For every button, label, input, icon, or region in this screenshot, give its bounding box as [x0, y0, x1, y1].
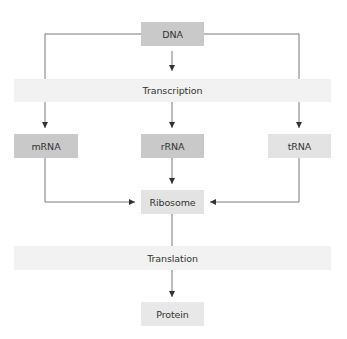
dna-node: DNA	[141, 22, 204, 46]
protein-label: Protein	[156, 309, 189, 320]
ribosome-label: Ribosome	[149, 197, 195, 208]
protein-node: Protein	[141, 302, 204, 326]
mrna-label: mRNA	[31, 141, 60, 152]
trna-label: tRNA	[288, 141, 312, 152]
trna-node: tRNA	[268, 134, 331, 158]
connector-arrows	[0, 0, 347, 339]
rrna-node: rRNA	[141, 134, 204, 158]
ribosome-node: Ribosome	[141, 190, 204, 214]
rrna-label: rRNA	[161, 141, 185, 152]
dna-label: DNA	[162, 29, 183, 40]
mrna-node: mRNA	[14, 134, 78, 158]
